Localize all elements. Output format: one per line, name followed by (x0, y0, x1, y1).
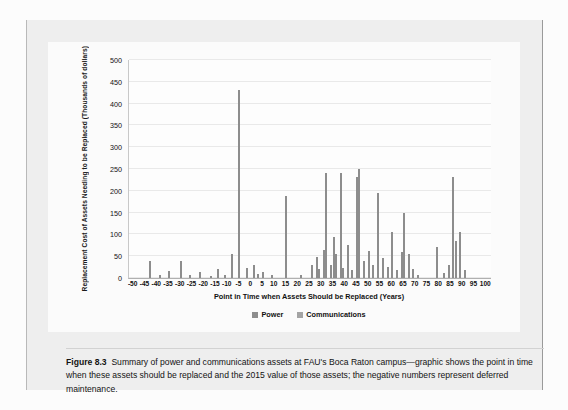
chart-bar (238, 90, 240, 278)
x-axis-tick-label: 75 (423, 280, 430, 287)
scanned-page: Replacement Cost of Assets Needing to be… (0, 0, 568, 410)
x-axis-tick-label: 10 (270, 280, 277, 287)
y-axis-tick-label: 350 (110, 121, 122, 130)
x-axis-tick-label: 5 (260, 280, 264, 287)
x-axis-tick-label: 60 (388, 280, 395, 287)
x-axis-tick-label: 50 (364, 280, 371, 287)
y-axis-tick-label: 400 (110, 99, 122, 108)
x-axis-tick-label: 55 (376, 280, 383, 287)
x-axis-tick-label: -25 (187, 280, 197, 287)
x-axis-tick-label: 85 (446, 280, 453, 287)
chart-bar (358, 169, 360, 278)
gridline (129, 233, 491, 234)
chart-bar (311, 265, 313, 278)
chart-bar (199, 272, 201, 278)
x-axis-tick-label: 40 (341, 280, 348, 287)
legend-label: Communications (306, 310, 365, 319)
gridline (129, 124, 491, 125)
chart-bar (246, 268, 248, 278)
chart-bar (382, 258, 384, 278)
y-axis-tick-label: 450 (110, 77, 122, 86)
gridline (129, 59, 491, 60)
chart-bar (443, 273, 445, 278)
x-axis-ticks: -50-45-40-35-30-25-20-15-10-505101520253… (128, 280, 490, 292)
chart-plot-area: Replacement Cost of Assets Needing to be… (48, 42, 520, 332)
chart-bar (459, 232, 461, 278)
chart-bar (455, 241, 457, 278)
chart-bar (325, 173, 327, 278)
figure-caption: Figure 8.3 Summary of power and communic… (66, 356, 544, 396)
y-axis-tick-label: 300 (110, 143, 122, 152)
chart-bar (231, 254, 233, 278)
chart-bar (347, 245, 349, 278)
chart-bar (372, 265, 374, 278)
chart-bar (224, 275, 226, 278)
chart-bar (417, 275, 419, 278)
y-axis-tick-label: 150 (110, 208, 122, 217)
x-axis-tick-label: 80 (435, 280, 442, 287)
gridline (129, 212, 491, 213)
x-axis-tick-label: 70 (411, 280, 418, 287)
legend-label: Power (261, 310, 283, 319)
chart-bar (210, 276, 212, 278)
chart-bar (403, 213, 405, 278)
chart-bar (300, 275, 302, 278)
chart-bar (285, 196, 287, 278)
chart-bar (436, 247, 438, 278)
y-axis-tick-label: 250 (110, 165, 122, 174)
x-axis-tick-label: 45 (352, 280, 359, 287)
y-axis-ticks: 050100150200250300350400450500 (98, 60, 124, 278)
x-axis-tick-label: 0 (248, 280, 252, 287)
chart-bar (377, 193, 379, 278)
y-axis-tick-label: 100 (110, 230, 122, 239)
chart-card: Replacement Cost of Assets Needing to be… (48, 42, 520, 332)
chart-bar (363, 261, 365, 278)
chart-bar (217, 269, 219, 278)
y-axis-title-text: Replacement Cost of Assets Needing to be… (80, 46, 89, 291)
y-axis-tick-label: 500 (110, 56, 122, 65)
chart-bar (318, 269, 320, 278)
x-axis-tick-label: 20 (294, 280, 301, 287)
chart-bar (464, 270, 466, 278)
chart-bar (351, 270, 353, 278)
chart-bar (159, 275, 161, 278)
chart-legend: PowerCommunications (128, 310, 490, 319)
x-axis-title: Point in Time when Assets Should be Repl… (128, 292, 490, 301)
plot-canvas (128, 60, 491, 279)
caption-divider (66, 348, 544, 349)
legend-swatch-icon (297, 312, 303, 318)
chart-bar (387, 267, 389, 278)
chart-bar (149, 261, 151, 278)
chart-bar (448, 265, 450, 278)
chart-bar (168, 271, 170, 278)
y-axis-title: Replacement Cost of Assets Needing to be… (74, 54, 94, 284)
x-axis-tick-label: -30 (175, 280, 185, 287)
gridline (129, 168, 491, 169)
x-axis-tick-label: 90 (458, 280, 465, 287)
x-axis-tick-label: 25 (305, 280, 312, 287)
figure-caption-text: Summary of power and communications asse… (66, 357, 533, 394)
legend-item: Power (252, 310, 283, 319)
gridline (129, 146, 491, 147)
chart-bar (257, 274, 259, 278)
gridline (129, 190, 491, 191)
figure-label: Figure 8.3 (66, 357, 107, 367)
chart-bar (391, 232, 393, 278)
x-axis-tick-label: 15 (282, 280, 289, 287)
gridline (129, 103, 491, 104)
chart-bar (342, 268, 344, 278)
chart-bar (408, 254, 410, 278)
chart-bar (396, 270, 398, 278)
x-axis-tick-label: 35 (329, 280, 336, 287)
chart-bar (368, 251, 370, 278)
legend-item: Communications (297, 310, 365, 319)
chart-bar (412, 269, 414, 278)
chart-bar (189, 275, 191, 278)
y-axis-tick-label: 200 (110, 186, 122, 195)
x-axis-tick-label: -20 (198, 280, 208, 287)
x-axis-tick-label: 30 (317, 280, 324, 287)
chart-bar (253, 265, 255, 278)
chart-bar (262, 272, 264, 278)
legend-swatch-icon (252, 312, 258, 318)
chart-bar (340, 173, 342, 278)
